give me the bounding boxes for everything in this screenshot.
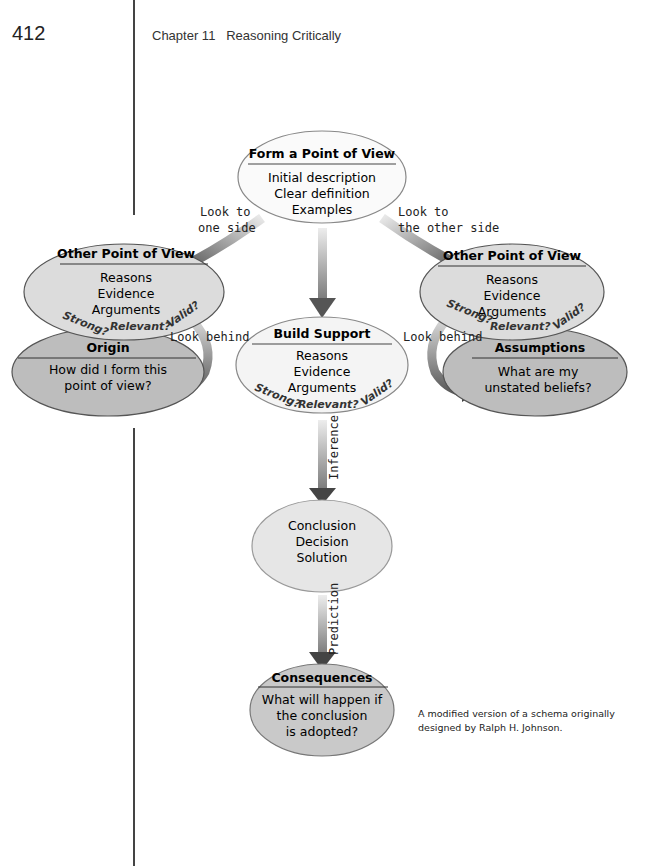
svg-text:Initial description: Initial description [268, 170, 376, 185]
svg-text:the conclusion: the conclusion [277, 708, 368, 723]
label-inference: Inference [327, 415, 341, 480]
svg-text:Examples: Examples [292, 202, 353, 217]
svg-text:Consequences: Consequences [271, 670, 372, 685]
figure-credit: A modified version of a schema originall… [418, 707, 638, 735]
svg-text:Build Support: Build Support [274, 326, 371, 341]
node-form-point-of-view: Form a Point of View Initial description… [238, 131, 406, 223]
svg-text:Conclusion: Conclusion [288, 518, 356, 533]
arrow-to-build-support [309, 228, 336, 318]
svg-text:Relevant?: Relevant? [110, 320, 171, 333]
svg-text:Reasons: Reasons [486, 272, 538, 287]
svg-text:Assumptions: Assumptions [495, 340, 586, 355]
label-look-behind-left: Look behind [170, 330, 249, 344]
svg-text:Evidence: Evidence [294, 364, 351, 379]
svg-text:Decision: Decision [295, 534, 348, 549]
svg-text:What are my: What are my [498, 364, 579, 379]
svg-text:point of view?: point of view? [64, 378, 151, 393]
label-look-behind-right: Look behind [403, 330, 482, 344]
node-title: Form a Point of View [249, 146, 396, 161]
svg-text:Other Point of View: Other Point of View [443, 248, 581, 263]
node-consequences: Consequences What will happen if the con… [250, 664, 394, 756]
svg-text:Solution: Solution [297, 550, 348, 565]
node-conclusion: Conclusion Decision Solution [252, 500, 392, 592]
svg-text:Relevant?: Relevant? [490, 320, 551, 333]
svg-text:Evidence: Evidence [484, 288, 541, 303]
label-look-to-other-side-2: the other side [398, 221, 499, 235]
svg-text:Origin: Origin [86, 340, 129, 355]
svg-text:Arguments: Arguments [92, 302, 161, 317]
label-prediction: Prediction [327, 583, 341, 655]
reasoning-diagram: Form a Point of View Initial description… [0, 0, 650, 866]
svg-text:Relevant?: Relevant? [298, 398, 359, 411]
svg-text:Other Point of View: Other Point of View [57, 246, 195, 261]
node-build-support: Build Support Reasons Evidence Arguments… [236, 317, 408, 413]
svg-text:How did I form this: How did I form this [49, 362, 167, 377]
node-other-point-of-view-right: Other Point of View Reasons Evidence Arg… [420, 244, 604, 340]
node-other-point-of-view-left: Other Point of View Reasons Evidence Arg… [24, 244, 224, 340]
svg-text:Evidence: Evidence [98, 286, 155, 301]
svg-text:Reasons: Reasons [296, 348, 348, 363]
svg-text:is adopted?: is adopted? [286, 724, 358, 739]
svg-text:What will happen if: What will happen if [262, 692, 383, 707]
label-look-to-other-side-1: Look to [398, 205, 449, 219]
label-look-to-one-side-2: one side [198, 221, 256, 235]
svg-text:Clear definition: Clear definition [274, 186, 370, 201]
svg-text:Reasons: Reasons [100, 270, 152, 285]
label-look-to-one-side-1: Look to [200, 205, 251, 219]
svg-text:Arguments: Arguments [288, 380, 357, 395]
svg-text:unstated beliefs?: unstated beliefs? [484, 380, 591, 395]
